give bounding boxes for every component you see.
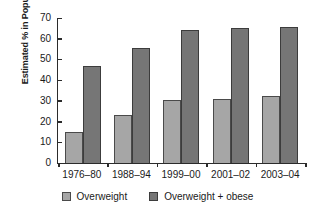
x-tick-mark (107, 163, 109, 167)
bar-group (163, 18, 199, 163)
plot-area: 010203040506070 (57, 18, 305, 164)
legend-item[interactable]: Overweight + obese (149, 190, 253, 203)
bar-group (65, 18, 101, 163)
y-tick-label: 50 (40, 52, 51, 65)
x-axis-label: 2001–02 (211, 168, 250, 182)
bar-overweight (65, 132, 83, 163)
bar-groups (58, 18, 305, 163)
bar-chart: Estimated % in Population 01020304050607… (0, 0, 315, 213)
x-axis-labels: 1976–801988–941999–002001–022003–04 (57, 168, 305, 184)
bar-group (262, 18, 298, 163)
x-tick-mark (305, 163, 307, 167)
y-tick-label: 10 (40, 135, 51, 148)
bar-overweight (262, 96, 280, 163)
bar-group (213, 18, 249, 163)
chart-legend: OverweightOverweight + obese (0, 190, 315, 203)
legend-label: Overweight + obese (164, 190, 253, 203)
x-axis-label: 1999–00 (162, 168, 201, 182)
legend-item[interactable]: Overweight (62, 190, 128, 203)
legend-swatch-icon (149, 192, 158, 201)
bar-overweight-plus-obese (231, 28, 249, 163)
x-axis-label: 1988–94 (112, 168, 151, 182)
legend-label: Overweight (77, 190, 128, 203)
x-tick-mark (58, 163, 60, 167)
y-tick-label: 30 (40, 94, 51, 107)
bar-overweight (114, 115, 132, 163)
bar-overweight-plus-obese (181, 30, 199, 163)
bar-overweight (163, 100, 181, 163)
bar-overweight-plus-obese (280, 27, 298, 163)
y-tick-label: 60 (40, 32, 51, 45)
y-tick-label: 0 (45, 156, 51, 169)
legend-swatch-icon (62, 192, 71, 201)
bar-overweight (213, 99, 231, 163)
y-axis-title: Estimated % in Population (18, 0, 32, 104)
bar-overweight-plus-obese (132, 48, 150, 163)
y-tick-label: 40 (40, 73, 51, 86)
y-tick-label: 20 (40, 115, 51, 128)
x-tick-mark (256, 163, 258, 167)
bar-overweight-plus-obese (83, 66, 101, 163)
x-axis-label: 1976–80 (62, 168, 101, 182)
bar-group (114, 18, 150, 163)
x-axis-label: 2003–04 (261, 168, 300, 182)
x-tick-mark (206, 163, 208, 167)
y-tick-label: 70 (40, 11, 51, 24)
x-tick-mark (157, 163, 159, 167)
